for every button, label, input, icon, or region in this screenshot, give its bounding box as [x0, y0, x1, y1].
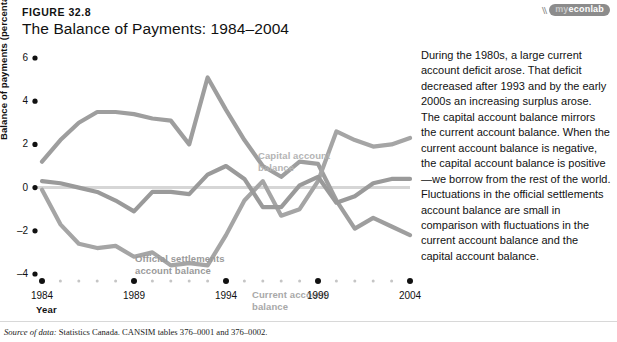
- myeconlab-word: econlab: [569, 5, 604, 14]
- y-tick-label: –4: [8, 268, 28, 279]
- figure-page: FIGURE 32.8 The Balance of Payments: 198…: [0, 0, 617, 342]
- myeconlab-mark-icon: \\: [542, 5, 546, 16]
- page-title: The Balance of Payments: 1984–2004: [22, 20, 289, 38]
- y-tick-label: 2: [8, 138, 28, 149]
- source-text: Statistics Canada. CANSIM tables 376–000…: [57, 327, 268, 337]
- series-line-0: [42, 77, 410, 235]
- footer-divider: [0, 321, 617, 322]
- myeconlab-prefix: my: [555, 5, 568, 14]
- myeconlab-wordmark: myeconlab: [549, 4, 610, 16]
- myeconlab-badge[interactable]: \\ myeconlab: [542, 3, 610, 17]
- y-tick-label: 4: [8, 95, 28, 106]
- x-tick-label: 1984: [22, 290, 62, 301]
- y-tick-label: 0: [8, 182, 28, 193]
- chart-container: Balance of payments (percentage of GDP) …: [0, 44, 418, 312]
- series-label-official-settlements: Official settlementsaccount balance: [135, 253, 225, 276]
- series-label-capital: Capital accountbalance: [258, 150, 330, 173]
- x-axis-title: Year: [36, 304, 57, 315]
- source-note: Source of data: Statistics Canada. CANSI…: [4, 327, 524, 337]
- x-tick-label: 1994: [206, 290, 246, 301]
- figure-caption-text: During the 1980s, a large current accoun…: [421, 48, 611, 264]
- y-tick-label: 6: [8, 52, 28, 63]
- figure-number: FIGURE 32.8: [22, 6, 91, 18]
- y-axis-title: Balance of payments (percentage of GDP): [0, 0, 9, 140]
- x-tick-label: 1989: [114, 290, 154, 301]
- x-tick-label: 1999: [298, 290, 338, 301]
- x-tick-label: 2004: [390, 290, 430, 301]
- y-tick-label: –2: [8, 225, 28, 236]
- source-label: Source of data:: [4, 327, 57, 337]
